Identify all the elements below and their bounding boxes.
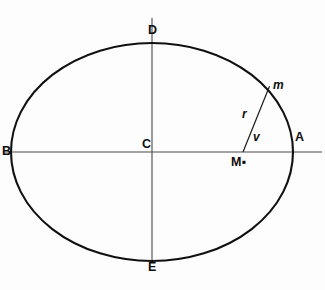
label-focus-mass: M▪ [231, 156, 246, 169]
label-focus-mass-letter: M [231, 155, 241, 169]
label-vertex-b: B [2, 145, 11, 158]
label-focus-mass-subscript: ▪ [241, 155, 245, 169]
label-true-anomaly-v: v [253, 131, 260, 143]
label-vertex-a: A [295, 131, 304, 144]
label-orbiting-body-m: m [273, 79, 284, 91]
label-vertex-e: E [148, 261, 156, 274]
label-center-c: C [142, 138, 151, 151]
label-vertex-d: D [148, 24, 157, 37]
label-radius-vector-r: r [242, 108, 247, 120]
ellipse-diagram-svg [0, 0, 325, 290]
figure-root: A B C D E m r v M▪ [0, 0, 325, 290]
